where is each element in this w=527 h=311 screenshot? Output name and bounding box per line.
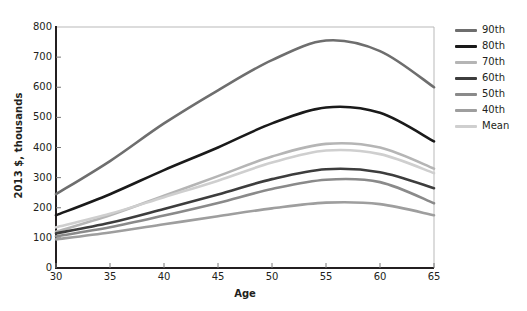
legend-item-90th[interactable]: 90th [455, 22, 527, 38]
x-tick-label: 65 [414, 272, 454, 282]
legend-label: Mean [482, 121, 509, 131]
y-tick-label-group: 0100200300400500600700800 [18, 0, 52, 311]
legend-item-70th[interactable]: 70th [455, 54, 527, 70]
legend-label: 70th [482, 57, 505, 67]
legend-label: 50th [482, 89, 505, 99]
series-curves [56, 40, 434, 239]
legend-swatch-icon [455, 93, 477, 96]
legend-item-40th[interactable]: 40th [455, 102, 527, 118]
legend-label: 40th [482, 105, 505, 115]
y-tick-label: 300 [22, 173, 52, 183]
x-axis-title: Age [56, 288, 434, 299]
legend-item-mean[interactable]: Mean [455, 118, 527, 134]
x-tick-label: 40 [144, 272, 184, 282]
legend-swatch-icon [455, 77, 477, 80]
legend-swatch-icon [455, 61, 477, 64]
chart-figure: 2013 $, thousands 0100200300400500600700… [0, 0, 527, 311]
x-tick-label: 35 [90, 272, 130, 282]
x-tick-label: 60 [360, 272, 400, 282]
y-tick-label: 100 [22, 233, 52, 243]
legend-item-80th[interactable]: 80th [455, 38, 527, 54]
series-line-80th [56, 107, 434, 216]
series-line-60th [56, 169, 434, 234]
legend-item-60th[interactable]: 60th [455, 70, 527, 86]
legend-label: 90th [482, 25, 505, 35]
y-tick-label: 400 [22, 143, 52, 153]
legend-label: 80th [482, 41, 505, 51]
legend-label: 60th [482, 73, 505, 83]
y-tick-label: 200 [22, 203, 52, 213]
legend-swatch-icon [455, 109, 477, 112]
x-tick-label: 45 [198, 272, 238, 282]
x-tick-label: 50 [252, 272, 292, 282]
plot-canvas [0, 0, 527, 311]
legend-item-50th[interactable]: 50th [455, 86, 527, 102]
chart-legend: 90th80th70th60th50th40thMean [455, 22, 527, 134]
series-line-40th [56, 202, 434, 239]
legend-swatch-icon [455, 45, 477, 48]
x-tick-label: 55 [306, 272, 346, 282]
legend-swatch-icon [455, 125, 477, 128]
legend-swatch-icon [455, 29, 477, 32]
y-tick-label: 800 [22, 22, 52, 32]
y-tick-label: 700 [22, 52, 52, 62]
y-tick-label: 500 [22, 112, 52, 122]
y-tick-label: 600 [22, 82, 52, 92]
x-tick-label: 30 [36, 272, 76, 282]
